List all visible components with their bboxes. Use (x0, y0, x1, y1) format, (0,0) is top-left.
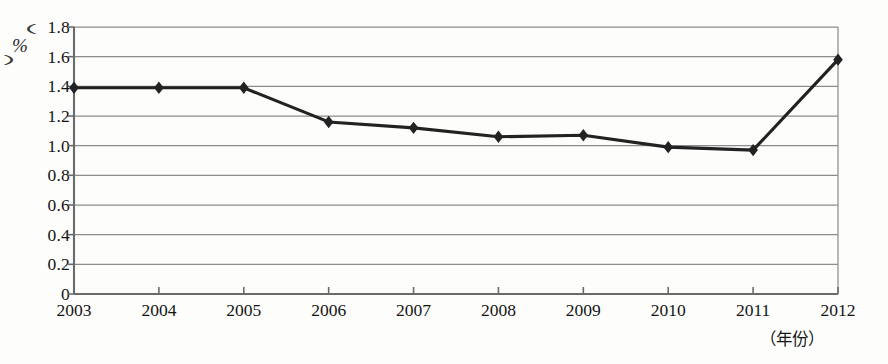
x-tick-label: 2008 (458, 300, 538, 321)
x-tick-label: 2007 (374, 300, 454, 321)
x-axis-unit-label: （年份） (760, 326, 824, 350)
x-tick-label: 2005 (204, 300, 284, 321)
data-point-marker (663, 141, 673, 153)
data-point-marker (494, 131, 504, 143)
x-tick-label: 2004 (119, 300, 199, 321)
x-tick-label: 2011 (713, 300, 793, 321)
chart-figure: （ % ） 00.20.40.60.81.01.21.41.61.8 20032… (0, 0, 888, 364)
x-tick-label: 2003 (34, 300, 114, 321)
x-tick-label: 2009 (543, 300, 623, 321)
data-point-marker (409, 122, 419, 134)
data-point-marker (69, 82, 79, 94)
data-point-marker (578, 129, 588, 141)
data-point-marker (324, 116, 334, 128)
data-point-marker (239, 82, 249, 94)
x-tick-label: 2010 (628, 300, 708, 321)
data-point-markers (69, 53, 843, 156)
x-tick-label: 2012 (798, 300, 878, 321)
data-line-series (74, 60, 838, 150)
axis-lines (74, 27, 838, 294)
x-tick-label: 2006 (289, 300, 369, 321)
x-axis-tick-labels: 2003200420052006200720082009201020112012 (0, 300, 888, 326)
data-point-marker (154, 82, 164, 94)
gridlines (74, 27, 838, 264)
